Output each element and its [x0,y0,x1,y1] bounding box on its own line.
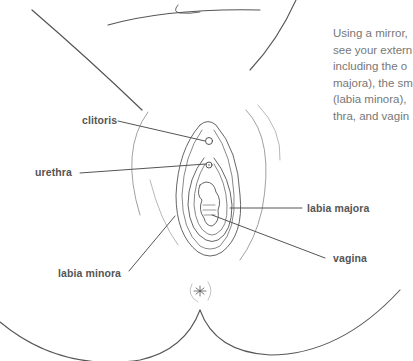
left-thigh-line [32,10,142,110]
paragraph-line: see your extern [333,42,413,59]
paragraph-line: thra, and vagin [333,108,413,125]
paragraph-line: including the o [333,58,413,75]
abdomen-line [108,10,260,25]
anus-mark [194,286,206,296]
clitoris-mark [206,138,213,145]
labia-minora-leader [129,216,175,271]
paragraph-line: (labia minora), [333,91,413,108]
right-inner-curve [240,110,266,260]
right-buttock [200,290,400,355]
clitoris-leader [118,121,205,141]
label-labia-majora: labia majora [307,202,369,214]
label-urethra: urethra [35,166,72,178]
label-labia-minora: labia minora [58,267,121,279]
vagina-leader [212,215,325,258]
paragraph-line: Using a mirror, [333,25,413,42]
description-paragraph: Using a mirror, see your extern includin… [333,25,413,125]
right-thigh-line [250,0,296,70]
labia-majora-outline [176,122,241,257]
paragraph-line: majora), the sm [333,75,413,92]
urethra-leader [80,164,206,173]
vaginal-opening [198,182,219,226]
label-vagina: vagina [333,252,367,264]
left-buttock [0,310,200,361]
labia-minora-outline [188,158,232,242]
label-clitoris: clitoris [82,114,117,126]
